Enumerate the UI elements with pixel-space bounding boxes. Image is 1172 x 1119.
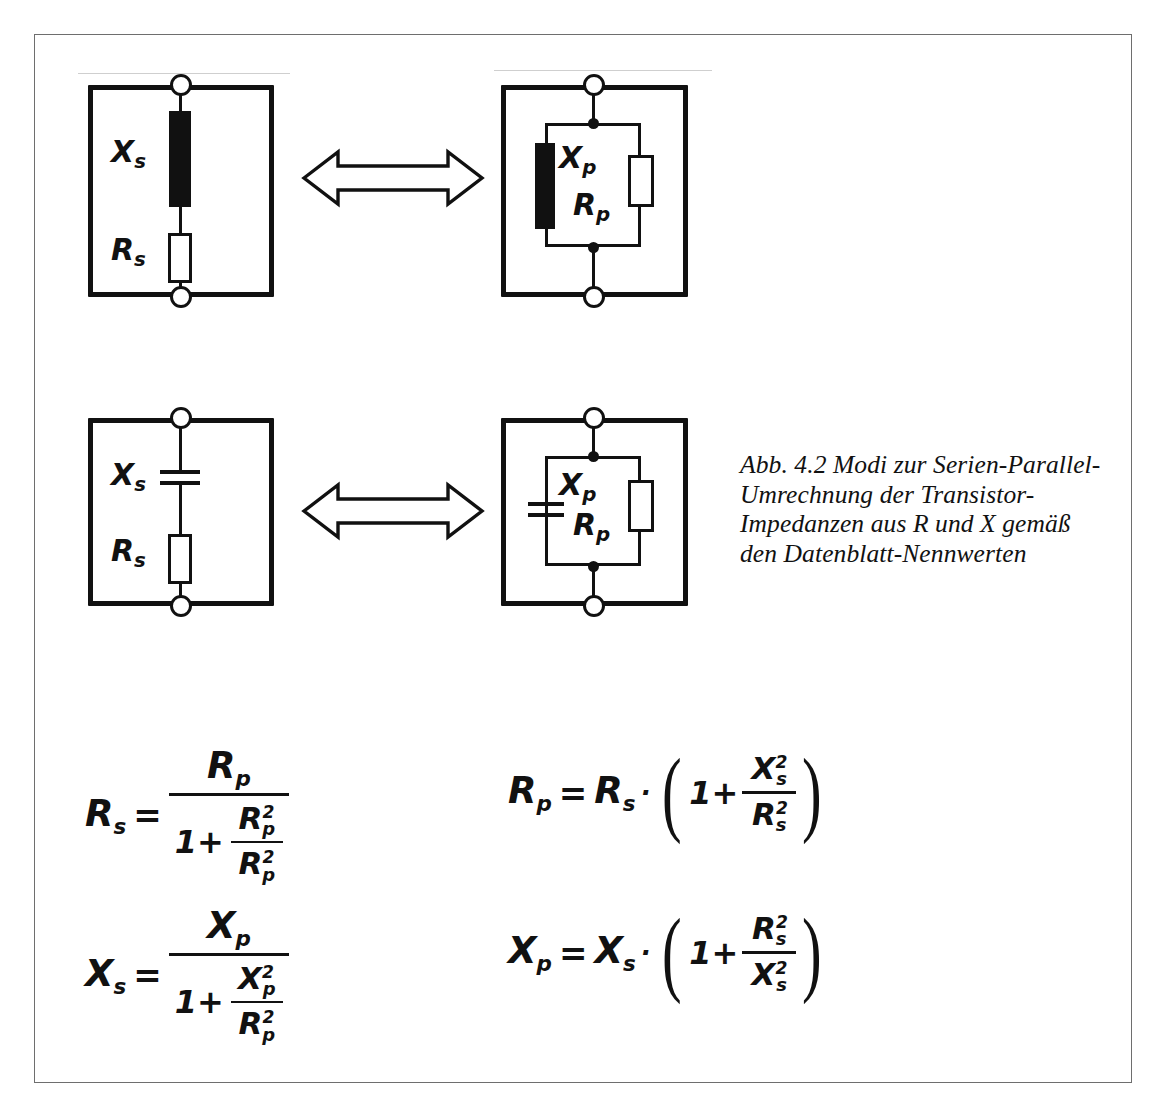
- inner-den-term: X2s: [752, 956, 787, 995]
- outer-fraction: Rp 1+ R2p R2p: [169, 742, 289, 889]
- caption-line-3: Impedanzen aus R und X gemäß: [740, 509, 1140, 539]
- inner-den-term: R2s: [752, 796, 786, 835]
- inner-denominator: R2p: [233, 1003, 282, 1046]
- wire-top-stub: [179, 426, 182, 470]
- equals-sign: =: [559, 773, 588, 813]
- terminal-top: [583, 407, 605, 429]
- inner-numerator: R2p: [233, 798, 282, 841]
- label-resistance: Rp: [573, 190, 610, 224]
- formula-lhs: Rp: [508, 769, 552, 816]
- formula-rp-from-rs: Rp = Rs · ( 1+ X2s R2s ): [508, 748, 828, 837]
- paren-open: (: [662, 754, 682, 832]
- inner-num-term: X2p: [238, 960, 276, 999]
- resistor-symbol: [628, 155, 654, 207]
- inner-fraction: X2s R2s: [742, 748, 796, 837]
- paren-close: ): [802, 754, 822, 832]
- caption-line-1: Abb. 4.2 Modi zur Serien-Parallel-: [740, 450, 1140, 480]
- multiplication-dot: ·: [641, 938, 651, 968]
- paren-lead: 1+: [689, 774, 738, 812]
- figure-canvas: Xs Rs Xp Rp Xs Rs: [0, 0, 1172, 1119]
- formula-lhs: Xs: [85, 952, 126, 999]
- caption-line-2: Umrechnung der Transistor-: [740, 480, 1140, 510]
- den-lead: 1+: [175, 983, 224, 1021]
- terminal-top: [170, 74, 192, 96]
- inner-num-term: X2s: [752, 750, 787, 789]
- label-resistance: Rs: [111, 536, 146, 570]
- junction-bottom: [588, 242, 599, 253]
- formula-xs-from-xp: Xs = Xp 1+ X2p R2p: [85, 902, 289, 1049]
- outer-denominator: 1+ X2p R2p: [169, 956, 289, 1049]
- terminal-bottom: [170, 595, 192, 617]
- inner-fraction: R2p R2p: [231, 798, 283, 887]
- outer-fraction: Xp 1+ X2p R2p: [169, 902, 289, 1049]
- multiplication-dot: ·: [641, 778, 651, 808]
- outer-denominator: 1+ R2p R2p: [169, 796, 289, 889]
- label-reactance: Xs: [111, 460, 146, 494]
- factor-term: Rs: [594, 769, 635, 816]
- diagram-series-inductive: Xs Rs: [88, 85, 274, 297]
- scan-artifact-line-right: [494, 70, 712, 71]
- inner-denominator: R2s: [746, 794, 792, 837]
- diagram-parallel-capacitive: Xp Rp: [501, 418, 688, 606]
- diagram-series-capacitive: Xs Rs: [88, 418, 274, 606]
- caption-line-4: den Datenblatt-Nennwerten: [740, 539, 1140, 569]
- num-term: Xp: [207, 904, 251, 951]
- wire-top-stub: [179, 93, 182, 113]
- num-term: Rp: [207, 744, 251, 791]
- paren-open: (: [662, 914, 682, 992]
- resistor-symbol: [628, 480, 654, 532]
- outer-numerator: Rp: [201, 742, 257, 793]
- equals-sign: =: [559, 933, 588, 973]
- double-arrow-icon: [300, 478, 486, 544]
- paren-close: ): [802, 914, 822, 992]
- inner-den-term: R2p: [239, 1005, 276, 1044]
- inner-denominator: X2s: [746, 954, 793, 997]
- inner-num-term: R2p: [239, 800, 276, 839]
- inner-numerator: X2s: [746, 748, 793, 791]
- capacitor-plate-top: [160, 470, 200, 474]
- figure-caption: Abb. 4.2 Modi zur Serien-Parallel- Umrec…: [740, 450, 1140, 568]
- inner-numerator: R2s: [746, 908, 792, 951]
- factor-term: Xs: [594, 929, 635, 976]
- formula-lhs: Rs: [85, 792, 126, 839]
- inner-den-term: R2p: [239, 845, 276, 884]
- terminal-top: [583, 74, 605, 96]
- inner-fraction: R2s X2s: [742, 908, 796, 997]
- label-resistance: Rp: [573, 510, 610, 544]
- terminal-bottom: [170, 286, 192, 308]
- terminal-bottom: [583, 595, 605, 617]
- inner-num-term: R2s: [752, 910, 786, 949]
- label-reactance: Xp: [559, 143, 596, 177]
- junction-top: [588, 118, 599, 129]
- inductor-symbol: [535, 143, 555, 229]
- inductor-symbol: [169, 111, 191, 207]
- inner-numerator: X2p: [232, 958, 282, 1001]
- label-resistance: Rs: [111, 235, 146, 269]
- formula-lhs: Xp: [508, 929, 552, 976]
- equivalence-arrow-row-1: [300, 145, 486, 211]
- equals-sign: =: [133, 955, 162, 995]
- junction-bottom: [588, 561, 599, 572]
- terminal-bottom: [583, 286, 605, 308]
- formula-rs-from-rp: Rs = Rp 1+ R2p R2p: [85, 742, 289, 889]
- resistor-symbol: [168, 233, 192, 283]
- label-reactance: Xs: [111, 137, 146, 171]
- equals-sign: =: [133, 795, 162, 835]
- double-arrow-icon: [300, 145, 486, 211]
- label-reactance: Xp: [559, 470, 596, 504]
- formula-xp-from-xs: Xp = Xs · ( 1+ R2s X2s ): [508, 908, 828, 997]
- inner-fraction: X2p R2p: [231, 958, 283, 1047]
- diagram-parallel-inductive: Xp Rp: [501, 85, 688, 297]
- wire-mid: [179, 484, 182, 536]
- outer-numerator: Xp: [201, 902, 257, 953]
- wire-mid: [179, 205, 182, 235]
- paren-lead: 1+: [689, 934, 738, 972]
- resistor-symbol: [168, 534, 192, 584]
- den-lead: 1+: [175, 823, 224, 861]
- terminal-top: [170, 407, 192, 429]
- inner-denominator: R2p: [233, 843, 282, 886]
- capacitor-plate-bottom: [528, 513, 564, 517]
- equivalence-arrow-row-2: [300, 478, 486, 544]
- capacitor-symbol: [528, 502, 564, 518]
- junction-top: [588, 451, 599, 462]
